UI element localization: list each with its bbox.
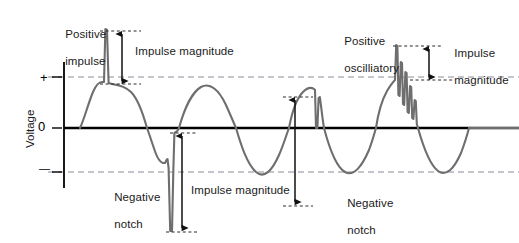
label-negative-notch-right-line2: notch (347, 224, 376, 236)
label-positive-impulse-line2: impulse (65, 55, 105, 67)
label-negative-notch-left-line2: notch (114, 218, 143, 230)
trace-segment-cycle4-negative (418, 128, 469, 173)
y-tick-label-plus: + (40, 70, 48, 85)
label-negative-notch-left-line1: Negative (114, 191, 160, 203)
label-impulse-magnitude-1: Impulse magnitude (135, 45, 234, 59)
label-impulse-magnitude-3-line2: magnitude (454, 74, 509, 86)
label-positive-oscilliatory: Positive oscilliatory (331, 21, 399, 89)
label-positive-oscilliatory-line2: oscilliatory (344, 62, 399, 74)
label-negative-notch-right: Negative notch (334, 183, 393, 243)
trace-segment-cycle3-negative (324, 128, 376, 173)
waveform-figure: Voltage + 0 — Positive impulse Impulse m… (0, 0, 519, 243)
label-impulse-magnitude-2: Impulse magnitude (191, 184, 290, 198)
label-positive-impulse: Positive impulse (52, 14, 106, 82)
label-impulse-magnitude-3-line1: Impulse (454, 47, 495, 59)
trace-segment-cycle2-positive (179, 86, 236, 128)
trace-segment-cycle2-negative (236, 128, 289, 175)
label-positive-oscilliatory-line1: Positive (344, 35, 385, 47)
label-positive-impulse-line1: Positive (65, 28, 106, 40)
label-negative-notch-left: Negative notch (101, 177, 160, 243)
y-axis-title: Voltage (24, 110, 36, 148)
label-negative-notch-right-line1: Negative (347, 197, 393, 209)
y-tick-label-minus: — (39, 162, 50, 174)
y-tick-label-zero: 0 (38, 119, 45, 134)
label-impulse-magnitude-3: Impulse magnitude (441, 33, 509, 101)
